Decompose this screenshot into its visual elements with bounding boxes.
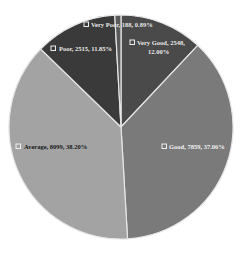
- label-poor-text: Poor, 2515, 11.85%: [59, 45, 112, 52]
- label-average-text: Average, 8099, 38.20%: [24, 143, 87, 150]
- label-poor: Poor, 2515, 11.85%: [51, 45, 112, 52]
- label-very-poor: Very Poor, 188, 0.89%: [84, 21, 153, 28]
- label-very-poor-text: Very Poor, 188, 0.89%: [91, 21, 153, 28]
- label-very-good-line2: 12.00%: [148, 48, 169, 55]
- label-average: Average, 8099, 38.20%: [16, 143, 87, 150]
- pie-chart: Very Good, 2548, 12.00% Good, 7859, 37.0…: [0, 0, 245, 255]
- pie-slices: [9, 15, 233, 239]
- label-very-good-line1: Very Good, 2548,: [137, 39, 185, 46]
- label-good-text: Good, 7859, 37.06%: [169, 143, 225, 150]
- label-good: Good, 7859, 37.06%: [162, 143, 225, 150]
